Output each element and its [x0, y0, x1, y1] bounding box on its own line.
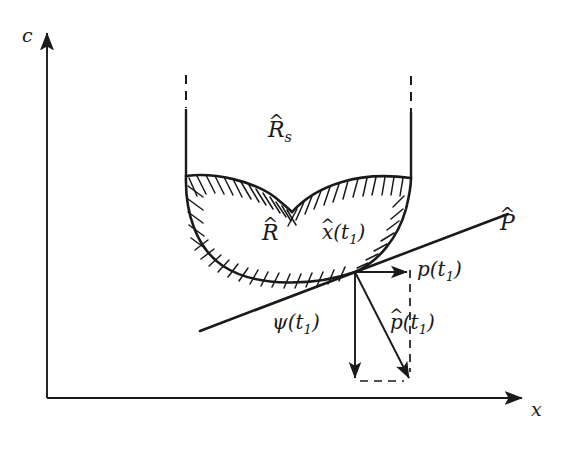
- p-label: p(t1): [417, 259, 462, 283]
- state-hat: ^: [321, 217, 335, 234]
- p-base: p: [417, 257, 430, 281]
- p-arg: (t: [430, 257, 446, 281]
- p-hat-label: ^p(t1): [390, 312, 435, 336]
- x-axis-label: x: [531, 400, 542, 419]
- hyperplane-label: ^P: [500, 212, 515, 234]
- p-hat-hat: ^: [389, 307, 403, 324]
- psi-sub: 1: [304, 322, 312, 337]
- region-hat: ^: [262, 216, 278, 235]
- region-s-subscript: s: [285, 129, 292, 145]
- region-walls: [186, 75, 411, 178]
- p-hat-arg: (t: [403, 310, 419, 334]
- c-axis-label: c: [22, 26, 33, 45]
- psi-label: ψ(t1): [272, 312, 320, 336]
- p-hat-sub: 1: [419, 322, 427, 337]
- region-s-label: ^Rs: [268, 119, 292, 145]
- state-close: ): [358, 220, 366, 244]
- hyperplane-hat: ^: [500, 206, 516, 225]
- region-s-hat: ^: [268, 113, 284, 132]
- p-hat-close: ): [427, 310, 435, 334]
- diagram-svg: [0, 0, 571, 457]
- reachable-set-boundary: [186, 175, 411, 282]
- psi-base: ψ: [272, 310, 288, 334]
- p-close: ): [454, 257, 462, 281]
- psi-close: ): [312, 310, 320, 334]
- psi-arg: (t: [288, 310, 304, 334]
- state-arg: (t: [333, 220, 349, 244]
- figure-canvas: c x ^Rs ^R ^x(t1) ^P p(t1) ^p(t1) ψ(t1): [0, 0, 571, 457]
- state-label: ^x(t1): [322, 222, 365, 246]
- region-label: ^R: [262, 222, 279, 244]
- state-sub: 1: [349, 232, 357, 247]
- p-sub: 1: [446, 269, 454, 284]
